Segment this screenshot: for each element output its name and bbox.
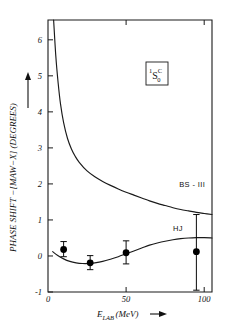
x-axis-tick-labels: 050100 <box>46 294 211 304</box>
series-curves <box>53 20 212 264</box>
y-tick-label: 1 <box>38 215 42 225</box>
y-tick-label: 0 <box>38 251 43 261</box>
chart-svg: -10123456 050100 BS - III HJ 1SC0 PHASE … <box>0 0 238 326</box>
x-axis-ticks <box>126 20 204 292</box>
data-point-marker <box>193 248 200 255</box>
y-axis-tick-labels: -10123456 <box>35 35 43 297</box>
y-axis-arrow-icon <box>25 72 31 108</box>
data-point-marker <box>123 249 130 256</box>
x-tick-label: 50 <box>122 294 131 304</box>
plot-frame <box>48 20 212 292</box>
y-tick-label: -1 <box>35 287 42 297</box>
x-axis-title-unit: (MeV) <box>116 309 139 319</box>
state-subscript-0: 0 <box>157 76 160 83</box>
y-tick-label: 2 <box>38 179 43 189</box>
state-superscript-c: C <box>158 67 162 74</box>
data-point-marker <box>60 246 67 253</box>
curve-hj <box>53 238 212 264</box>
x-axis-title-sub: LAB <box>102 314 115 321</box>
y-tick-label: 6 <box>38 35 43 45</box>
axes-box <box>48 20 212 292</box>
x-tick-label: 0 <box>46 294 51 304</box>
x-axis-title-group: ELAB(MeV) <box>96 309 167 321</box>
y-tick-label: 4 <box>38 107 43 117</box>
x-axis-arrow-icon <box>150 311 167 317</box>
y-tick-label: 5 <box>38 71 42 81</box>
x-tick-label: 100 <box>198 294 212 304</box>
phase-shift-chart: -10123456 050100 BS - III HJ 1SC0 PHASE … <box>0 0 238 326</box>
state-label-box: 1SC0 <box>146 62 168 85</box>
curve-label-hj: HJ <box>173 224 183 233</box>
y-axis-ticks <box>48 40 53 292</box>
data-point-marker <box>87 259 94 266</box>
state-label-text: 1SC0 <box>149 67 162 83</box>
curve-label-bs-iii: BS - III <box>179 180 205 189</box>
y-axis-title: PHASE SHIFT −[MAW−X] (DEGREES) <box>8 103 18 253</box>
y-tick-label: 3 <box>37 143 42 153</box>
y-axis-title-group: PHASE SHIFT −[MAW−X] (DEGREES) <box>8 72 31 253</box>
x-axis-title: ELAB(MeV) <box>96 309 139 321</box>
